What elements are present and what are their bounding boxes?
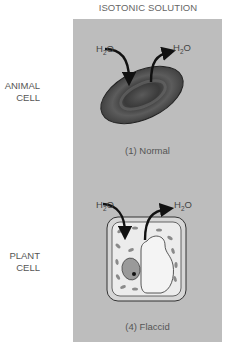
- animal-cell-label-line2: CELL: [5, 92, 40, 104]
- animal-cell-label-line1: ANIMAL: [5, 80, 40, 92]
- red-blood-cell-icon: [92, 55, 192, 136]
- plant-water-in-label: H2O: [96, 199, 114, 212]
- water-in-o: O: [107, 43, 114, 54]
- plant-cell-label-line2: CELL: [9, 262, 40, 274]
- plant-water-out-o: O: [185, 199, 192, 210]
- water-in-h: H: [96, 43, 103, 54]
- plant-cell-label-line1: PLANT: [9, 250, 40, 262]
- plant-water-out-label: H2O: [174, 199, 192, 212]
- plant-cell-caption: (4) Flaccid: [73, 321, 222, 332]
- water-in-label: H2O: [96, 43, 114, 56]
- plant-water-out-h: H: [174, 199, 181, 210]
- animal-cell-caption: (1) Normal: [73, 145, 222, 156]
- water-out-label: H2O: [173, 42, 191, 55]
- water-out-h: H: [173, 42, 180, 53]
- animal-cell-label: ANIMAL CELL: [5, 80, 40, 104]
- diagram-artwork: [73, 19, 222, 342]
- diagram-title: ISOTONIC SOLUTION: [73, 2, 223, 13]
- water-out-o: O: [184, 42, 191, 53]
- plant-water-in-h: H: [96, 199, 103, 210]
- plant-water-in-o: O: [107, 199, 114, 210]
- plant-cell-label: PLANT CELL: [9, 250, 40, 274]
